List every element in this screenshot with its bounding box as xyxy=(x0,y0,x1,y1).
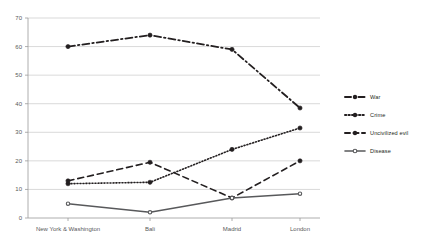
chart-legend: WarCrimeUncivilized evilDisease xyxy=(344,88,421,160)
data-point xyxy=(298,159,302,163)
data-point xyxy=(298,126,302,130)
data-point xyxy=(148,33,152,37)
data-point xyxy=(66,44,70,48)
data-point xyxy=(230,147,234,151)
data-point xyxy=(298,106,302,110)
series-line-crime xyxy=(68,128,300,184)
y-tick-label: 30 xyxy=(2,129,22,135)
data-point xyxy=(148,160,152,164)
data-point xyxy=(230,196,233,199)
line-chart-canvas xyxy=(0,0,335,243)
legend-item-disease[interactable]: Disease xyxy=(344,142,421,160)
y-tick-label: 70 xyxy=(2,15,22,21)
legend-item-uncivilized-evil[interactable]: Uncivilized evil xyxy=(344,124,421,142)
legend-label: War xyxy=(370,94,380,100)
series-line-disease xyxy=(68,194,300,213)
series-line-uncivilized-evil xyxy=(68,161,300,198)
legend-key-icon xyxy=(344,128,366,138)
legend-key-icon xyxy=(344,110,366,120)
y-tick-label: 60 xyxy=(2,44,22,50)
plot-area: 706050403020100 New York & WashingtonBal… xyxy=(0,0,335,243)
legend-label: Uncivilized evil xyxy=(370,130,408,136)
data-point xyxy=(66,179,70,183)
chart-screenshot: 706050403020100 New York & WashingtonBal… xyxy=(0,0,421,243)
data-point xyxy=(230,47,234,51)
data-point xyxy=(298,192,301,195)
legend-item-war[interactable]: War xyxy=(344,88,421,106)
x-tick-label: London xyxy=(255,226,345,233)
legend-key-icon xyxy=(344,146,366,156)
y-tick-label: 10 xyxy=(2,186,22,192)
y-tick-label: 0 xyxy=(2,215,22,221)
data-point xyxy=(148,180,152,184)
data-point xyxy=(148,211,151,214)
legend-key-icon xyxy=(344,92,366,102)
y-tick-label: 20 xyxy=(2,158,22,164)
legend-item-crime[interactable]: Crime xyxy=(344,106,421,124)
legend-label: Crime xyxy=(370,112,385,118)
y-tick-label: 40 xyxy=(2,101,22,107)
x-tick-label: Bali xyxy=(105,226,195,233)
legend-label: Disease xyxy=(370,148,391,154)
data-point xyxy=(66,202,69,205)
series-line-war xyxy=(68,35,300,108)
y-tick-label: 50 xyxy=(2,72,22,78)
x-tick-label: New York & Washington xyxy=(23,226,113,233)
